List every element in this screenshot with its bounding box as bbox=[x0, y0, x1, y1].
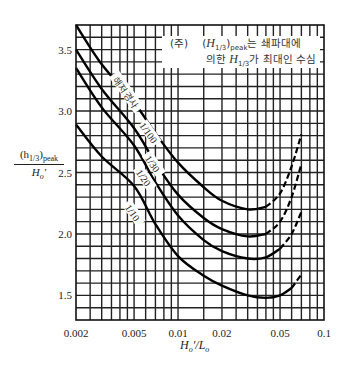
annotation-box: (주)(H1/3)peak는 쇄파대에 의한 H1/3가 최대인 수심 bbox=[162, 36, 320, 68]
y-label-prime: ′ bbox=[44, 166, 46, 178]
x-label-H: H bbox=[180, 338, 189, 352]
x-tick-label: 0.05 bbox=[270, 327, 290, 339]
y-label-numerator: (h1/3)peak bbox=[14, 148, 64, 165]
annotation-sub: 1/3 bbox=[215, 44, 226, 52]
annotation-text-2b: 가 최대인 수심 bbox=[249, 53, 316, 65]
y-tick-label: 3.0 bbox=[58, 105, 72, 117]
y-axis-label: (h1/3)peak Ho′ bbox=[14, 148, 64, 181]
x-tick-label: 0.002 bbox=[64, 327, 89, 339]
annotation-prefix: (주) bbox=[170, 37, 188, 49]
y-label-peak: peak bbox=[43, 154, 58, 163]
y-tick-label: 3.5 bbox=[58, 44, 72, 56]
curve-1-10-solid bbox=[76, 125, 292, 298]
x-tick-label: 0.005 bbox=[122, 327, 147, 339]
annotation-text-2a: 의한 bbox=[206, 53, 229, 65]
x-label-mid: ′/L bbox=[193, 338, 206, 352]
annotation-line-2: 의한 H1/3가 최대인 수심 bbox=[206, 52, 316, 72]
x-label-o2: o bbox=[205, 345, 209, 354]
annotation-sub-2: 1/3 bbox=[238, 60, 249, 68]
annotation-math: H bbox=[206, 36, 215, 50]
x-axis-label: Ho′/Lo bbox=[180, 338, 209, 354]
y-label-sub: 1/3 bbox=[29, 154, 39, 163]
x-tick-label: 0.1 bbox=[317, 327, 331, 339]
x-tick-label: 0.02 bbox=[212, 327, 231, 339]
curve-1-20-dashed bbox=[280, 212, 301, 249]
y-tick-label: 1.5 bbox=[58, 289, 72, 301]
curve-1-100-dashed bbox=[266, 134, 301, 207]
annotation-text-1: 는 쇄파대에 bbox=[247, 37, 300, 49]
curve-1-10-dashed bbox=[292, 275, 302, 289]
y-label-H: H bbox=[32, 166, 40, 178]
annotation-math-2: H bbox=[229, 52, 238, 66]
y-label-denominator: Ho′ bbox=[14, 165, 64, 181]
annotation-sub-peak: peak bbox=[230, 44, 247, 52]
y-label-h: (h bbox=[20, 148, 29, 160]
y-tick-label: 2.0 bbox=[58, 228, 72, 240]
